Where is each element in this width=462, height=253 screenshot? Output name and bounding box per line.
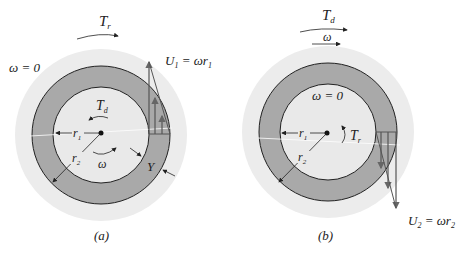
top-torque-label-a: Tr <box>99 13 111 31</box>
omega-label-a: ω <box>98 157 106 171</box>
omega-zero-label-a: ω = 0 <box>9 60 40 75</box>
figure-b: Td ω ω = 0 Tr r1 r2 U2 = ωr2 (b) <box>242 7 455 243</box>
figure-a: Tr ω = 0 U1 = ωr1 Td r1 r2 ω Y (a) <box>9 13 212 243</box>
couette-flow-diagram: Tr ω = 0 U1 = ωr1 Td r1 r2 ω Y (a) <box>0 0 462 253</box>
torque-arrow-a <box>77 35 118 39</box>
velocity-label-a: U1 = ωr1 <box>165 53 212 70</box>
top-torque-label-b: Td <box>322 7 335 25</box>
caption-a: (a) <box>94 228 109 243</box>
caption-b: (b) <box>318 228 333 243</box>
top-omega-label-b: ω <box>323 30 331 44</box>
velocity-label-b: U2 = ωr2 <box>408 213 455 230</box>
omega-zero-label-b: ω = 0 <box>312 88 343 103</box>
